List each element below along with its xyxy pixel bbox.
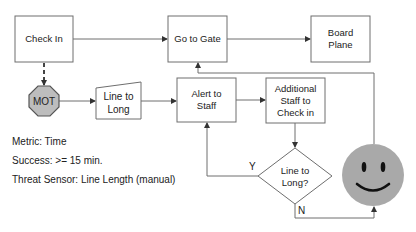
decision-label-1: Line to	[281, 165, 310, 176]
yes-branch-label: Y	[249, 161, 256, 172]
node-additional-staff: Additional Staff to Check in	[266, 78, 325, 123]
metric-text: Metric: Time	[12, 136, 66, 147]
edge-decision-no-to-smiley	[295, 204, 374, 218]
additional-staff-label-3: Check in	[277, 107, 314, 118]
board-plane-label-2: Plane	[328, 39, 352, 50]
process-flow-diagram: Check In Go to Gate Board Plane MOT Line…	[0, 0, 416, 232]
additional-staff-label-2: Staff to	[281, 95, 311, 106]
no-branch-label: N	[298, 205, 305, 216]
node-line-to-long: Line to Long	[96, 82, 141, 119]
additional-staff-label-1: Additional	[275, 83, 317, 94]
smiley-face-icon	[342, 144, 404, 206]
node-mot: MOT	[29, 86, 59, 116]
line-to-long-label-1: Line to	[103, 91, 133, 102]
board-plane-label-1: Board	[328, 27, 353, 38]
alert-staff-label-1: Alert to	[191, 88, 221, 99]
threat-sensor-text: Threat Sensor: Line Length (manual)	[12, 174, 175, 185]
node-check-in: Check In	[15, 16, 73, 62]
node-board-plane: Board Plane	[311, 16, 370, 62]
go-to-gate-label: Go to Gate	[174, 33, 220, 44]
alert-staff-label-2: Staff	[197, 100, 217, 111]
success-text: Success: >= 15 min.	[12, 155, 103, 166]
node-decision-line-too-long: Line to Long?	[258, 148, 332, 204]
decision-label-2: Long?	[282, 177, 308, 188]
node-go-to-gate: Go to Gate	[168, 16, 227, 62]
line-to-long-label-2: Long	[107, 104, 129, 115]
mot-label: MOT	[33, 96, 55, 107]
check-in-label: Check In	[25, 33, 63, 44]
node-alert-to-staff: Alert to Staff	[177, 78, 236, 122]
